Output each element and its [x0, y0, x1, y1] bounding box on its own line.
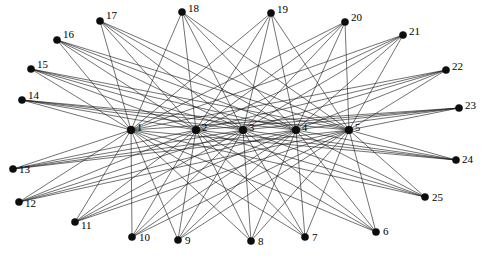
graph-edge: [196, 108, 459, 130]
graph-edge: [131, 130, 425, 197]
graph-edge: [296, 70, 446, 130]
graph-edge: [182, 12, 196, 130]
peripheral-node-14[interactable]: [18, 96, 25, 103]
graph-edge: [296, 108, 459, 130]
peripheral-node-24[interactable]: [452, 156, 459, 163]
graph-edge: [31, 69, 296, 130]
graph-canvas: 6789101112131415161718192021222324251234…: [0, 0, 485, 257]
node-label-16: 16: [63, 28, 75, 40]
graph-edge: [296, 22, 345, 130]
node-label-20: 20: [351, 11, 363, 23]
peripheral-node-18[interactable]: [178, 8, 185, 15]
peripheral-node-12[interactable]: [15, 198, 22, 205]
node-label-2: 2: [202, 122, 207, 133]
node-label-21: 21: [409, 25, 420, 37]
graph-edge: [271, 13, 296, 130]
peripheral-node-21[interactable]: [399, 31, 406, 38]
hub-node-5[interactable]: [345, 126, 353, 134]
node-label-12: 12: [25, 197, 36, 209]
node-label-5: 5: [355, 122, 360, 133]
peripheral-node-11[interactable]: [71, 218, 78, 225]
peripheral-node-16[interactable]: [53, 36, 60, 43]
graph-edge: [31, 69, 243, 130]
graph-edge: [19, 130, 349, 202]
graph-edge: [349, 108, 459, 130]
graph-edge: [22, 100, 196, 130]
graph-edge: [131, 130, 132, 237]
hub-node-4[interactable]: [292, 126, 300, 134]
node-label-6: 6: [383, 225, 389, 237]
node-label-11: 11: [81, 219, 92, 231]
node-label-10: 10: [139, 231, 151, 243]
peripheral-node-23[interactable]: [455, 104, 462, 111]
hub-node-2[interactable]: [192, 126, 200, 134]
graph-edge: [13, 130, 296, 169]
graph-edge: [57, 40, 196, 130]
peripheral-node-20[interactable]: [341, 18, 348, 25]
node-label-25: 25: [432, 191, 444, 203]
graph-edge: [182, 12, 296, 130]
node-label-22: 22: [452, 60, 463, 72]
node-label-4: 4: [302, 122, 308, 133]
node-label-23: 23: [465, 99, 477, 111]
graph-edge: [196, 70, 446, 130]
graph-edge: [243, 130, 425, 197]
node-label-13: 13: [19, 163, 31, 175]
peripheral-node-13[interactable]: [9, 165, 16, 172]
graph-edge: [296, 130, 376, 232]
peripheral-node-17[interactable]: [96, 17, 103, 24]
edge-layer: [13, 12, 459, 241]
hub-node-3[interactable]: [239, 126, 247, 134]
graph-figure: 6789101112131415161718192021222324251234…: [0, 0, 485, 257]
node-label-15: 15: [37, 58, 49, 70]
graph-edge: [132, 130, 349, 237]
graph-edge: [349, 130, 456, 160]
node-label-24: 24: [462, 153, 474, 165]
graph-edge: [22, 100, 296, 130]
graph-edge: [178, 130, 196, 240]
graph-edge: [31, 69, 196, 130]
node-label-1: 1: [137, 122, 142, 133]
graph-edge: [57, 40, 131, 130]
node-label-9: 9: [185, 234, 191, 246]
graph-edge: [243, 70, 446, 130]
peripheral-node-25[interactable]: [421, 193, 428, 200]
graph-edge: [19, 130, 196, 202]
label-layer: 6789101112131415161718192021222324251234…: [19, 2, 477, 247]
graph-edge: [296, 35, 403, 130]
graph-edge: [75, 130, 196, 222]
node-label-3: 3: [249, 122, 254, 133]
graph-edge: [131, 70, 446, 130]
node-label-18: 18: [188, 2, 200, 14]
graph-edge: [243, 22, 345, 130]
hub-node-1[interactable]: [127, 126, 135, 134]
peripheral-node-19[interactable]: [267, 9, 274, 16]
graph-edge: [100, 21, 296, 130]
peripheral-node-9[interactable]: [174, 236, 181, 243]
graph-edge: [243, 130, 251, 241]
peripheral-node-7[interactable]: [301, 233, 308, 240]
peripheral-node-6[interactable]: [372, 228, 379, 235]
graph-edge: [345, 22, 349, 130]
graph-edge: [13, 130, 131, 169]
graph-edge: [22, 100, 131, 130]
node-label-8: 8: [258, 235, 264, 247]
node-label-19: 19: [277, 3, 289, 15]
peripheral-node-10[interactable]: [128, 233, 135, 240]
peripheral-node-22[interactable]: [442, 66, 449, 73]
node-label-7: 7: [312, 231, 318, 243]
graph-edge: [75, 130, 296, 222]
peripheral-node-8[interactable]: [247, 237, 254, 244]
graph-edge: [196, 130, 376, 232]
node-label-14: 14: [28, 89, 40, 101]
graph-edge: [131, 130, 456, 160]
graph-edge: [243, 130, 456, 160]
peripheral-node-15[interactable]: [27, 65, 34, 72]
graph-edge: [296, 130, 456, 160]
node-label-17: 17: [106, 9, 118, 21]
